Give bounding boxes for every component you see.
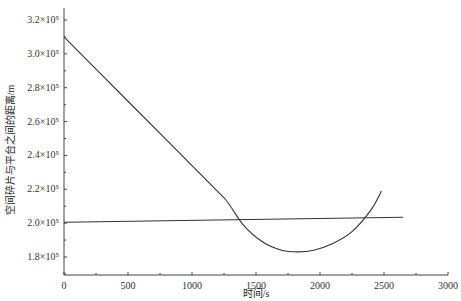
y-tick-label: 2.6×10⁵ xyxy=(27,116,59,127)
series xyxy=(64,37,403,252)
x-tick-label: 2000 xyxy=(310,280,330,291)
series-line-threshold xyxy=(64,217,403,222)
y-axis-label: 空间碎片与平台之间的距离/m xyxy=(4,85,16,216)
x-tick-label: 500 xyxy=(121,280,136,291)
y-tick-label: 2.2×10⁵ xyxy=(27,183,59,194)
y-tick-label: 2.8×10⁵ xyxy=(27,82,59,93)
x-tick-label: 2500 xyxy=(374,280,394,291)
x-tick-label: 3000 xyxy=(438,280,458,291)
chart: 0500100015002000250030001.8×10⁵2.0×10⁵2.… xyxy=(0,0,461,301)
x-tick-label: 1000 xyxy=(182,280,202,291)
y-tick-label: 3.0×10⁵ xyxy=(27,48,59,59)
y-tick-label: 3.2×10⁵ xyxy=(27,14,59,25)
x-axis-label: 时间/s xyxy=(243,287,270,299)
x-tick-label: 0 xyxy=(62,280,67,291)
axes: 0500100015002000250030001.8×10⁵2.0×10⁵2.… xyxy=(27,8,458,291)
y-tick-label: 1.8×10⁵ xyxy=(27,251,59,262)
y-tick-label: 2.4×10⁵ xyxy=(27,149,59,160)
y-tick-label: 2.0×10⁵ xyxy=(27,217,59,228)
